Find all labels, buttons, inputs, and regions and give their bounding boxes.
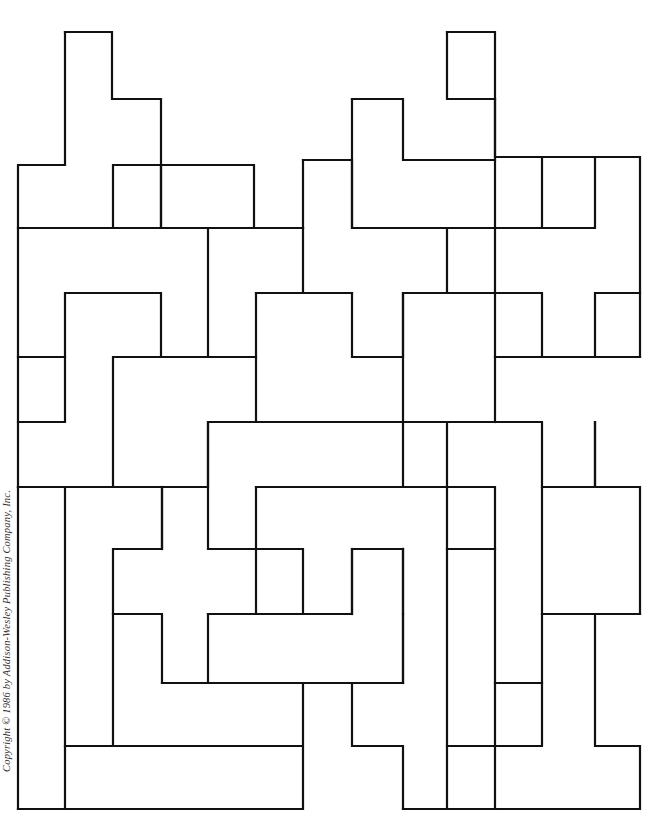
tile-edge [447, 32, 495, 160]
tile-edge [403, 422, 447, 487]
tile-edge [208, 422, 403, 549]
tile-edge [161, 165, 208, 357]
tile-edge [495, 293, 640, 357]
tile-edge [161, 160, 303, 228]
tile-edge [495, 157, 595, 293]
tile-edge [18, 422, 256, 487]
tile-edge [447, 422, 595, 487]
tile-edge [18, 228, 161, 357]
tile-edge [447, 549, 495, 746]
tile-edge [256, 549, 403, 614]
tile-edge [352, 614, 403, 683]
tile-edge [352, 683, 403, 809]
tile-edge [495, 614, 640, 809]
tile-edge [18, 32, 113, 228]
tile-edge [256, 487, 495, 549]
tile-edge [352, 99, 447, 293]
tile-edge [113, 165, 161, 228]
tile-edge [303, 160, 352, 228]
tile-edge [495, 99, 542, 228]
tile-edge [18, 357, 65, 422]
tile-edge [595, 422, 640, 614]
tile-edge [542, 157, 640, 357]
tile-edge [447, 32, 495, 99]
tile-edge [18, 487, 162, 746]
tile-edge [113, 549, 256, 683]
copyright-notice: Copyright © 1986 by Addison-Wesley Publi… [1, 490, 12, 772]
tile-edge [65, 683, 303, 809]
pentomino-puzzle-diagram [0, 0, 666, 834]
tile-edge [65, 32, 161, 165]
tile-edge [352, 99, 447, 160]
